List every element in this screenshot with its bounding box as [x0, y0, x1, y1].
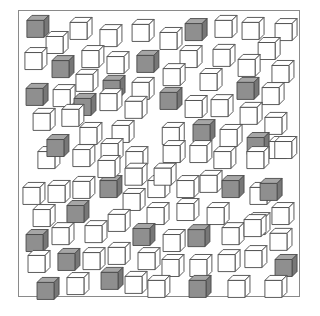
white-cube: [190, 141, 212, 163]
cube-front-face: [275, 259, 292, 276]
white-cube: [108, 242, 130, 264]
gray-cube: [26, 230, 48, 252]
white-cube: [162, 254, 184, 276]
cube-front-face: [185, 24, 202, 41]
white-cube: [53, 85, 75, 107]
cube-front-face: [265, 117, 282, 134]
cube-front-face: [33, 113, 50, 130]
cube-front-face: [240, 107, 257, 124]
white-cube: [123, 188, 145, 210]
cube-front-face: [193, 125, 210, 142]
gray-cube: [137, 50, 159, 72]
cube-front-face: [76, 74, 93, 91]
cube-front-face: [67, 278, 84, 295]
white-cube: [265, 275, 287, 297]
white-cube: [46, 31, 68, 53]
cube-front-face: [58, 253, 75, 270]
white-cube: [258, 38, 280, 60]
white-cube: [98, 155, 120, 177]
white-cube: [200, 170, 222, 192]
white-cube: [218, 250, 240, 272]
white-cube: [245, 246, 267, 268]
cube-front-face: [125, 101, 142, 118]
cube-front-face: [46, 36, 63, 53]
cube-front-face: [213, 49, 230, 66]
cube-front-face: [260, 183, 277, 200]
cube-front-face: [190, 259, 207, 276]
cube-front-face: [98, 160, 115, 177]
cube-front-face: [185, 100, 202, 117]
white-cube: [108, 209, 130, 231]
white-cube: [215, 15, 237, 37]
cube-front-face: [73, 181, 90, 198]
cube-front-face: [163, 146, 180, 163]
cube-front-face: [23, 187, 40, 204]
cube-front-face: [100, 181, 117, 198]
white-cube: [163, 141, 185, 163]
cube-front-face: [200, 74, 217, 91]
white-cube: [247, 147, 269, 169]
cube-front-face: [101, 272, 118, 289]
cube-front-face: [107, 57, 124, 74]
cube-front-face: [220, 129, 237, 146]
cube-front-face: [242, 22, 259, 39]
cube-front-face: [189, 280, 206, 297]
cube-front-face: [222, 228, 239, 245]
cube-front-face: [275, 142, 292, 159]
white-cube: [272, 60, 294, 82]
white-cube: [138, 248, 160, 270]
cube-front-face: [67, 206, 84, 223]
cube-front-face: [160, 32, 177, 49]
white-cube: [125, 163, 147, 185]
cube-front-face: [177, 181, 194, 198]
gray-cube: [101, 267, 123, 289]
cube-front-face: [108, 214, 125, 231]
white-cube: [244, 215, 266, 237]
cube-front-face: [137, 55, 154, 72]
gray-cube: [222, 176, 244, 198]
white-cube: [23, 182, 45, 204]
cube-front-face: [200, 175, 217, 192]
white-cube: [163, 64, 185, 86]
cube-front-face: [52, 61, 69, 78]
cube-front-face: [27, 20, 44, 37]
cube-front-face: [265, 280, 282, 297]
cube-front-face: [83, 253, 100, 270]
gray-cube: [58, 248, 80, 270]
white-cube: [28, 250, 50, 272]
white-cube: [214, 147, 236, 169]
white-cube: [262, 83, 284, 105]
gray-cube: [100, 176, 122, 198]
cube-front-face: [28, 255, 45, 272]
cube-front-face: [154, 168, 171, 185]
cube-front-face: [47, 140, 64, 157]
cube-front-face: [188, 230, 205, 247]
cube-front-face: [80, 127, 97, 144]
white-cube: [163, 230, 185, 252]
cube-front-face: [123, 193, 140, 210]
white-cube: [67, 273, 89, 295]
white-cube: [200, 69, 222, 91]
cube-front-face: [215, 20, 232, 37]
cube-front-face: [138, 253, 155, 270]
white-cube: [85, 221, 107, 243]
white-cube: [211, 95, 233, 117]
cube-front-face: [222, 181, 239, 198]
white-cube: [177, 199, 199, 221]
cube-front-face: [147, 208, 164, 225]
cube-front-face: [62, 109, 79, 126]
white-cube: [48, 180, 70, 202]
white-cube: [70, 17, 92, 39]
white-cube: [25, 48, 47, 70]
gray-cube: [67, 201, 89, 223]
white-cube: [33, 108, 55, 130]
white-cube: [76, 69, 98, 91]
cube-front-face: [163, 235, 180, 252]
cube-front-face: [85, 226, 102, 243]
white-cube: [132, 19, 154, 41]
cube-front-face: [37, 282, 54, 299]
cube-front-face: [247, 152, 264, 169]
white-cube: [228, 275, 250, 297]
white-cube: [147, 203, 169, 225]
white-cube: [100, 89, 122, 111]
